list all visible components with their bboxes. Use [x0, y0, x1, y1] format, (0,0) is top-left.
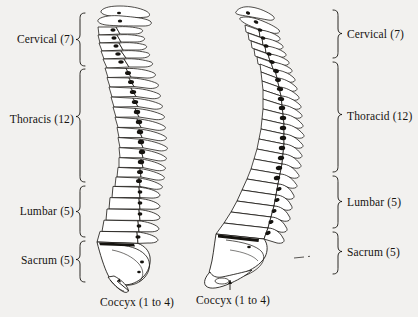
right-label-sacrum: Sacrum (5): [347, 246, 418, 258]
vertebral-column-figure: [0, 0, 418, 317]
left-label-thoracic: Thoracis (12): [0, 113, 74, 125]
page-background: [0, 0, 418, 317]
left-label-cervical: Cervical (7): [4, 33, 74, 45]
right-label-coccyx: Coccyx (1 to 4): [178, 294, 288, 306]
left-label-lumbar: Lumbar (5): [4, 205, 74, 217]
right-label-thoracic: Thoracid (12): [347, 110, 418, 122]
left-label-coccyx: Coccyx (1 to 4): [82, 296, 192, 308]
right-label-cervical: Cervical (7): [347, 28, 418, 40]
left-label-sacrum: Sacrum (5): [4, 254, 74, 266]
right-label-lumbar: Lumbar (5): [347, 196, 418, 208]
